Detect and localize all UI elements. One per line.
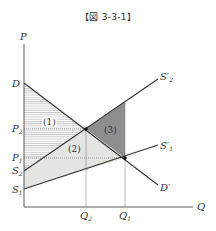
- equilibrium-point-e2: [84, 127, 88, 131]
- demand-start-label: D: [11, 78, 20, 89]
- supply1-end-sub: 1: [169, 145, 173, 152]
- svg-text:P1: P1: [11, 152, 23, 164]
- supply2-start-sub: 2: [18, 170, 23, 177]
- region-3-label: (3): [104, 125, 117, 135]
- supply2-end-sub: 2: [168, 76, 173, 83]
- svg-text:S′2: S′2: [160, 71, 173, 83]
- region-1-label: (1): [43, 117, 56, 127]
- svg-text:S′1: S′1: [160, 140, 173, 152]
- region-2-label: (2): [68, 144, 81, 154]
- equilibrium-point-e1: [123, 156, 127, 160]
- svg-text:P2: P2: [11, 123, 23, 135]
- svg-text:S1: S1: [12, 184, 23, 196]
- supply1-start-sub: 1: [19, 189, 23, 196]
- p1-sub: 1: [19, 157, 23, 164]
- q2-sub: 2: [87, 215, 92, 222]
- p2-sub: 2: [18, 128, 23, 135]
- svg-text:Q1: Q1: [119, 210, 131, 222]
- supply-demand-diagram: P Q D D′ S′2 S′1 S2 S1 P2 P1 Q2 Q1 (1) (…: [0, 0, 216, 231]
- demand-end-label: D′: [159, 182, 171, 193]
- svg-text:Q2: Q2: [80, 210, 92, 222]
- q1-sub: 1: [127, 215, 131, 222]
- y-axis-label: P: [19, 31, 27, 42]
- svg-text:S2: S2: [12, 165, 23, 177]
- q1-label: Q: [119, 210, 127, 221]
- x-axis-label: Q: [197, 201, 205, 212]
- q2-label: Q: [80, 210, 88, 221]
